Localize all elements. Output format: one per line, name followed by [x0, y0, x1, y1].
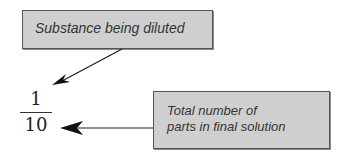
arrow-to-denominator-icon [60, 121, 153, 135]
arrows-layer [0, 0, 348, 158]
arrow-to-numerator-icon [52, 49, 122, 85]
